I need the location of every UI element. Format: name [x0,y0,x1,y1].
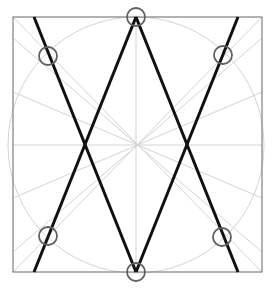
diagram-canvas [0,0,272,290]
